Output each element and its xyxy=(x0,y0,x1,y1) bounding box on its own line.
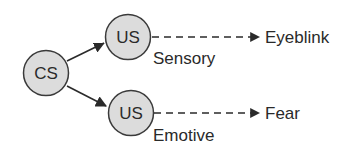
sensory-label: Sensory xyxy=(153,49,216,68)
node-us-sensory-label: US xyxy=(116,28,140,47)
node-us-sensory: US xyxy=(106,15,151,60)
node-cs: CS xyxy=(24,51,69,96)
edge-cs-to-us-emotive xyxy=(67,86,106,106)
output-eyeblink: Eyeblink xyxy=(265,28,330,47)
edge-cs-to-us-sensory xyxy=(67,43,104,61)
emotive-label: Emotive xyxy=(153,126,214,145)
node-cs-label: CS xyxy=(34,64,58,83)
node-us-emotive-label: US xyxy=(119,104,143,123)
output-fear: Fear xyxy=(265,104,300,123)
node-us-emotive: US xyxy=(109,91,154,136)
cs-us-diagram: CS US Sensory US Emotive Eyeblink Fear xyxy=(0,0,359,158)
